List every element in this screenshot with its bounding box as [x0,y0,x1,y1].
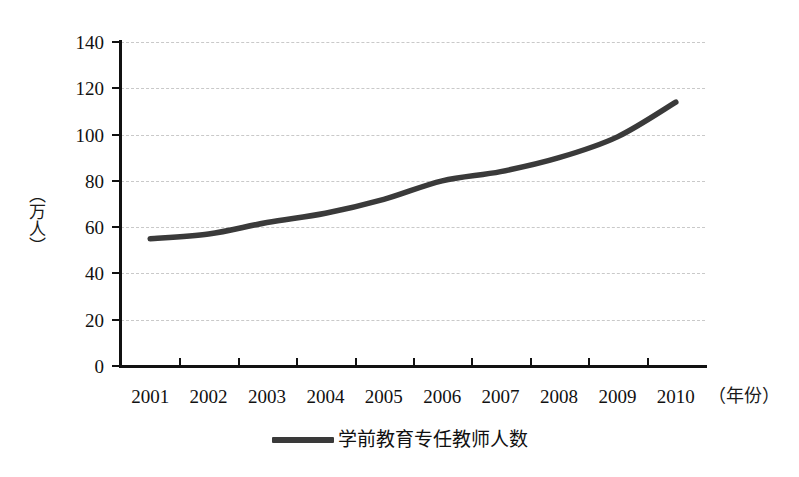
x-tick-label: 2004 [296,387,354,406]
y-tick-mark [112,180,121,182]
x-tick-mark [647,358,649,367]
gridline [121,135,705,136]
gridline [121,273,705,274]
x-tick-mark [588,358,590,367]
y-tick-label: 100 [52,126,104,145]
x-tick-label: 2010 [647,387,705,406]
y-tick-label: 80 [52,172,104,191]
x-tick-label: 2009 [588,387,646,406]
y-tick-label: 60 [52,218,104,237]
y-tick-label: 40 [52,264,104,283]
series-line-preschool-teachers [150,102,676,239]
y-tick-label: 120 [52,79,104,98]
x-axis-title: （年份） [708,387,780,406]
x-tick-label: 2001 [121,387,179,406]
gridline [121,181,705,182]
y-tick-mark [112,365,121,367]
y-tick-mark [112,319,121,321]
x-tick-mark [238,358,240,367]
gridline [121,88,705,89]
gridline [121,42,705,43]
x-tick-label: 2008 [530,387,588,406]
legend-item-label: 学前教育专任教师人数 [338,430,528,450]
x-tick-label: 2007 [471,387,529,406]
x-tick-mark [296,358,298,367]
x-tick-label: 2006 [413,387,471,406]
x-tick-mark [179,358,181,367]
y-tick-mark [112,272,121,274]
x-tick-mark [471,358,473,367]
y-tick-mark [112,41,121,43]
x-tick-mark [355,358,357,367]
gridline [121,320,705,321]
y-axis-title: （万人） [22,160,48,280]
x-tick-mark [530,358,532,367]
x-tick-mark [413,358,415,367]
gridline [121,227,705,228]
y-tick-mark [112,87,121,89]
x-tick-label: 2003 [238,387,296,406]
line-chart-figure: （万人） 020406080100120140 2001200220032004… [0,0,799,477]
x-tick-label: 2005 [355,387,413,406]
legend-line-swatch [272,437,334,443]
y-tick-mark [112,134,121,136]
y-tick-label: 140 [52,33,104,52]
y-tick-label: 20 [52,311,104,330]
x-tick-label: 2002 [179,387,237,406]
chart-legend: 学前教育专任教师人数 [0,430,799,450]
y-tick-mark [112,226,121,228]
y-tick-label: 0 [52,357,104,376]
